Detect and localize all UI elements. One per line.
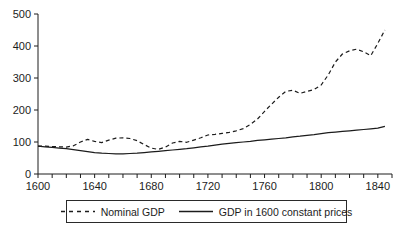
legend-item-nominal-gdp: Nominal GDP: [61, 206, 165, 218]
series-line-gdp-in-1600-constant-prices: [38, 126, 385, 154]
series-line-nominal-gdp: [38, 30, 385, 149]
x-tick-label-1800: 1800: [309, 180, 333, 192]
y-tick-label-300: 300: [13, 72, 31, 84]
gdp-chart-figure: 0100200300400500160016401680172017601800…: [0, 0, 400, 230]
y-tick-label-200: 200: [13, 104, 31, 116]
x-tick-label-1720: 1720: [196, 180, 220, 192]
x-tick-label-1680: 1680: [139, 180, 163, 192]
solid-line-icon: [179, 207, 213, 216]
legend: Nominal GDP GDP in 1600 constant prices: [66, 200, 347, 223]
chart-canvas: 0100200300400500160016401680172017601800…: [0, 0, 400, 198]
y-tick-label-100: 100: [13, 136, 31, 148]
x-tick-label-1640: 1640: [82, 180, 106, 192]
dashed-line-icon: [61, 207, 95, 216]
x-tick-label-1600: 1600: [26, 180, 50, 192]
x-axis: 1600164016801720176018001840: [26, 174, 392, 192]
y-tick-label-400: 400: [13, 40, 31, 52]
y-tick-label-0: 0: [25, 168, 31, 180]
y-tick-label-500: 500: [13, 8, 31, 20]
legend-label-real-gdp: GDP in 1600 constant prices: [219, 206, 352, 218]
legend-label-nominal-gdp: Nominal GDP: [101, 206, 165, 218]
x-tick-label-1840: 1840: [366, 180, 390, 192]
legend-item-real-gdp: GDP in 1600 constant prices: [179, 206, 352, 218]
x-tick-label-1760: 1760: [252, 180, 276, 192]
y-axis: 0100200300400500: [13, 8, 38, 180]
